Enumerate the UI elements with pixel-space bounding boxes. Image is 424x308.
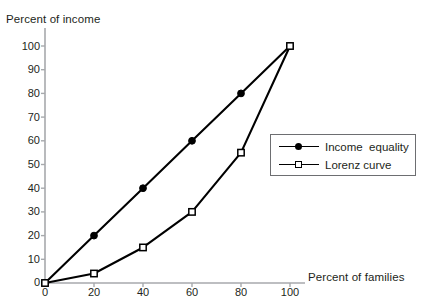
legend-item-income-equality: Income equality bbox=[277, 138, 409, 155]
data-point-marker bbox=[140, 185, 147, 192]
data-point-marker bbox=[91, 232, 98, 239]
data-point-marker bbox=[189, 137, 196, 144]
legend-marker-filled-circle-icon bbox=[277, 140, 321, 154]
data-point-marker bbox=[91, 270, 97, 276]
legend-marker-open-square-icon bbox=[277, 158, 321, 172]
data-point-marker bbox=[287, 43, 293, 49]
data-point-marker bbox=[140, 244, 146, 250]
data-point-marker bbox=[238, 90, 245, 97]
data-point-marker bbox=[238, 149, 244, 155]
income-equality-line bbox=[45, 46, 290, 283]
data-point-marker bbox=[42, 280, 48, 286]
data-point-marker bbox=[189, 209, 195, 215]
lorenz-curve-chart: Percent of income Percent of families 10… bbox=[0, 0, 424, 308]
chart-legend: Income equality Lorenz curve bbox=[270, 134, 416, 176]
legend-label-lorenz-curve: Lorenz curve bbox=[325, 159, 391, 171]
legend-item-lorenz-curve: Lorenz curve bbox=[277, 156, 391, 173]
legend-label-income-equality: Income equality bbox=[325, 141, 409, 153]
